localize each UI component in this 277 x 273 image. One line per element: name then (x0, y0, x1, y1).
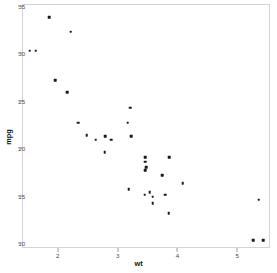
y-tick-mark (18, 195, 22, 196)
y-axis-label: mpg (4, 129, 13, 145)
data-point (144, 169, 147, 172)
x-tick-mark (177, 248, 178, 252)
data-point (48, 16, 51, 19)
y-tick-mark (18, 53, 22, 54)
data-point (66, 91, 69, 94)
x-tick-label: 2 (56, 252, 59, 259)
data-point (70, 30, 73, 33)
data-point (257, 198, 260, 201)
y-tick-mark (18, 5, 22, 6)
x-tick-label: 5 (235, 252, 238, 259)
y-tick-mark (18, 243, 22, 244)
data-point (35, 49, 38, 52)
data-point (104, 151, 107, 154)
x-tick-mark (57, 248, 58, 252)
data-point (28, 49, 31, 52)
data-point (151, 202, 154, 205)
data-point (168, 156, 171, 159)
data-point (151, 195, 154, 198)
data-point (85, 134, 88, 137)
data-point (104, 135, 107, 138)
x-tick-label: 3 (116, 252, 119, 259)
data-point (110, 139, 113, 142)
data-point (144, 156, 147, 159)
data-point (130, 135, 133, 138)
data-point (161, 174, 164, 177)
data-point (129, 106, 132, 109)
x-tick-mark (117, 248, 118, 252)
data-point (262, 239, 265, 242)
data-point (127, 188, 130, 191)
data-points-layer (23, 5, 269, 247)
data-point (143, 194, 146, 197)
data-point (77, 121, 80, 124)
data-point (54, 79, 57, 82)
scatter-plot-figure: mpg wt 1015202530352345 (0, 0, 277, 273)
y-tick-mark (18, 148, 22, 149)
plot-panel (22, 4, 270, 248)
data-point (95, 139, 98, 142)
x-tick-mark (237, 248, 238, 252)
data-point (181, 182, 184, 185)
y-tick-mark (18, 100, 22, 101)
data-point (164, 194, 167, 197)
data-point (168, 212, 171, 215)
x-axis-label: wt (134, 259, 142, 268)
x-tick-label: 4 (176, 252, 179, 259)
data-point (144, 160, 147, 163)
data-point (126, 121, 129, 124)
data-point (148, 191, 151, 194)
data-point (252, 239, 255, 242)
